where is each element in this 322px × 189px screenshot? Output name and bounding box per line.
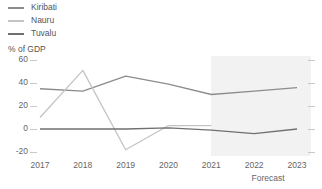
y-tick-mark-right: [308, 60, 315, 61]
x-tick-label: 2019: [106, 160, 146, 170]
y-tick-label: 60: [2, 54, 28, 64]
y-tick-mark: [30, 152, 37, 153]
x-tick-label: 2021: [191, 160, 231, 170]
y-tick-label: 40: [2, 77, 28, 87]
y-tick-label: -20: [2, 146, 28, 156]
x-tick-label: 2018: [63, 160, 103, 170]
x-tick-label: 2017: [20, 160, 60, 170]
y-tick-mark-right: [308, 152, 315, 153]
y-tick-mark: [30, 129, 37, 130]
chart-root: Kiribati Nauru Tuvalu % of GDP 6040200-2…: [0, 0, 322, 189]
y-tick-mark: [30, 60, 37, 61]
y-tick-mark-right: [308, 83, 315, 84]
y-tick-mark-right: [308, 106, 315, 107]
x-tick-label: 2022: [234, 160, 274, 170]
x-tick-label: 2023: [277, 160, 317, 170]
y-tick-mark: [30, 83, 37, 84]
y-tick-mark-right: [308, 129, 315, 130]
y-tick-mark: [30, 106, 37, 107]
y-tick-label: 0: [2, 123, 28, 133]
y-tick-label: 20: [2, 100, 28, 110]
series-line-tuvalu: [40, 128, 297, 134]
series-line-kiribati: [40, 76, 297, 94]
series-line-nauru: [40, 70, 211, 149]
plot-area: 6040200-202017201820192020202120222023: [0, 0, 322, 189]
x-tick-label: 2020: [149, 160, 189, 170]
forecast-caption: Forecast: [238, 173, 298, 183]
